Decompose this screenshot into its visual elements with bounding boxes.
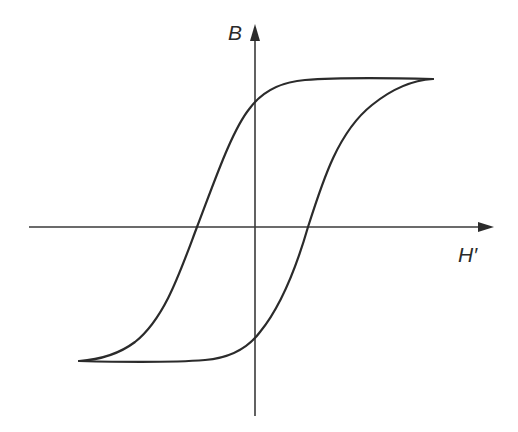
x-axis-label: H′	[458, 243, 478, 266]
y-axis-arrow-icon	[250, 24, 260, 41]
ascending-branch-curve	[79, 79, 433, 362]
x-axis: H′	[29, 222, 494, 266]
y-axis-label: B	[228, 21, 242, 44]
hysteresis-diagram: H′ B	[0, 0, 518, 432]
descending-branch-curve	[79, 78, 433, 361]
x-axis-arrow-icon	[478, 222, 494, 232]
y-axis: B	[228, 21, 260, 416]
